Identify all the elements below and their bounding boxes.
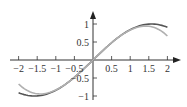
- y-tick-label: 0.5: [77, 37, 90, 48]
- x-tick-label: 1: [128, 63, 133, 74]
- x-tick-label: 0.5: [105, 63, 118, 74]
- x-tick-label: 1.5: [143, 63, 156, 74]
- x-tick-label: −2: [13, 63, 24, 74]
- y-tick-label: −1: [78, 91, 89, 102]
- x-tick-label: −1.5: [28, 63, 46, 74]
- y-tick-label: 1: [84, 19, 89, 30]
- plot-area: −2−1.5−1−0.50.511.5210.5−0.5−1: [0, 0, 187, 107]
- y-axis-arrow-icon: [90, 11, 96, 19]
- x-tick-label: −1: [50, 63, 61, 74]
- x-axis-arrow-icon: [173, 57, 181, 63]
- y-tick-label: −0.5: [71, 73, 89, 84]
- x-tick-label: 2: [165, 63, 170, 74]
